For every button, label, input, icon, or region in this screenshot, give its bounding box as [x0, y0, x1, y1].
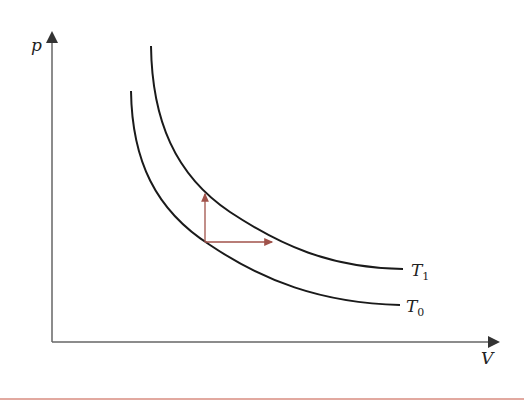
isotherm-t0 — [131, 91, 400, 305]
y-axis-label: p — [31, 37, 42, 54]
label-t1: T1 — [411, 262, 429, 282]
isotherm-t1 — [151, 46, 403, 269]
label-t0: T0 — [406, 298, 424, 318]
pv-diagram — [0, 0, 524, 400]
x-axis-label: V — [481, 350, 493, 367]
